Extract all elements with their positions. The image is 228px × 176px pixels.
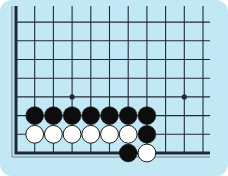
black-stone xyxy=(63,107,81,125)
white-stone xyxy=(63,125,81,143)
white-stone xyxy=(26,125,44,143)
black-stone xyxy=(45,107,63,125)
white-stone xyxy=(138,144,156,162)
white-stone xyxy=(45,125,63,143)
black-stone xyxy=(26,107,44,125)
black-stone xyxy=(119,107,137,125)
star-point-icon xyxy=(182,94,187,99)
star-point-icon xyxy=(70,94,75,99)
white-stone xyxy=(82,125,100,143)
white-stone xyxy=(101,125,119,143)
black-stone xyxy=(138,125,156,143)
go-board-diagram xyxy=(0,0,228,176)
black-stone xyxy=(101,107,119,125)
white-stone xyxy=(119,125,137,143)
black-stone xyxy=(82,107,100,125)
black-stone xyxy=(119,144,137,162)
black-stone xyxy=(138,107,156,125)
